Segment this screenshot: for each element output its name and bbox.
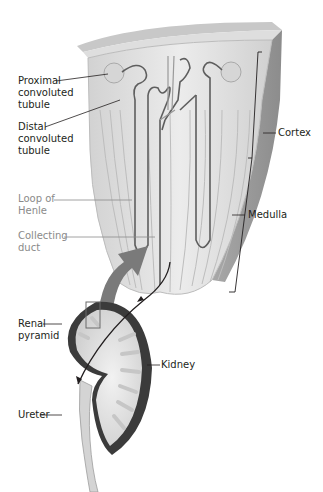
glomerulus-left: [104, 63, 124, 83]
label-collecting-duct: Collecting duct: [18, 230, 68, 254]
kidney-nephron-diagram: Proximal convoluted tubule Distal convol…: [0, 0, 323, 492]
label-kidney: Kidney: [161, 359, 195, 371]
label-distal-convoluted-tubule: Distal convoluted tubule: [18, 121, 74, 157]
label-medulla: Medulla: [248, 209, 287, 221]
label-renal-pyramid: Renal pyramid: [18, 318, 59, 342]
label-ureter: Ureter: [18, 409, 50, 421]
label-proximal-convoluted-tubule: Proximal convoluted tubule: [18, 75, 74, 111]
label-loop-of-henle: Loop of Henle: [18, 193, 55, 217]
glomerulus-right: [221, 62, 241, 82]
label-cortex: Cortex: [278, 127, 311, 139]
